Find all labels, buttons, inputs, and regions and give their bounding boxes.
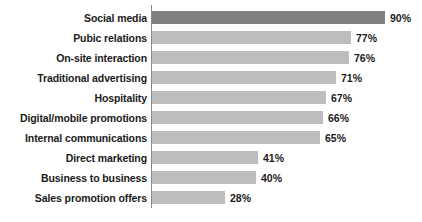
category-label: Digital/mobile promotions xyxy=(20,112,147,124)
bar-value-label: 66% xyxy=(328,112,349,124)
bar xyxy=(152,191,225,204)
category-label: Pubic relations xyxy=(73,32,147,44)
bar-row: Pubic relations77% xyxy=(0,31,422,44)
bar xyxy=(152,31,351,44)
category-label: Sales promotion offers xyxy=(35,192,147,204)
category-label: Social media xyxy=(84,12,147,24)
bar-row: Social media90% xyxy=(0,11,422,24)
bar xyxy=(152,171,256,184)
bar-row: Business to business40% xyxy=(0,171,422,184)
bar xyxy=(152,51,349,64)
category-label: Hospitality xyxy=(94,92,147,104)
bar-value-label: 67% xyxy=(331,92,352,104)
bar xyxy=(152,71,336,84)
bar-value-label: 76% xyxy=(354,52,375,64)
bar-row: Direct marketing41% xyxy=(0,151,422,164)
bar-row: Hospitality67% xyxy=(0,91,422,104)
bar-value-label: 90% xyxy=(390,12,411,24)
bar-row: On-site interaction76% xyxy=(0,51,422,64)
bar-value-label: 28% xyxy=(230,192,251,204)
bar xyxy=(152,111,323,124)
category-label: Direct marketing xyxy=(66,152,147,164)
bar xyxy=(152,131,320,144)
bar-value-label: 41% xyxy=(263,152,284,164)
bar-row: Traditional advertising71% xyxy=(0,71,422,84)
bar-value-label: 71% xyxy=(341,72,362,84)
bar-value-label: 77% xyxy=(356,32,377,44)
bar-row: Internal communications65% xyxy=(0,131,422,144)
bar xyxy=(152,151,258,164)
bar-value-label: 40% xyxy=(261,172,282,184)
bar-value-label: 65% xyxy=(325,132,346,144)
category-label: Internal communications xyxy=(25,132,147,144)
bar-row: Sales promotion offers28% xyxy=(0,191,422,204)
category-label: Business to business xyxy=(41,172,147,184)
bar-row: Digital/mobile promotions66% xyxy=(0,111,422,124)
bar-chart: Social media90%Pubic relations77%On-site… xyxy=(0,0,422,222)
category-label: On-site interaction xyxy=(56,52,147,64)
bar xyxy=(152,11,385,24)
plot-area: Social media90%Pubic relations77%On-site… xyxy=(0,0,422,222)
category-label: Traditional advertising xyxy=(37,72,147,84)
bar xyxy=(152,91,326,104)
